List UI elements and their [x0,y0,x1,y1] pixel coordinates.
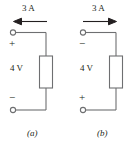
circuit-element-box [110,56,123,88]
circuit-b: 3 A 4 V − + (b) [70,0,140,146]
polarity-bottom-a: − [9,92,15,103]
terminal-top [10,30,15,35]
caption-a: (a) [27,128,38,138]
voltage-label-b: 4 V [80,64,93,73]
current-arrow-left-icon [14,18,48,25]
caption-b: (b) [97,128,108,138]
circuit-element-box [40,56,53,88]
current-arrow-right-icon [83,18,117,25]
terminal-bottom [80,107,85,112]
terminal-top [80,30,85,35]
terminal-bottom [10,107,15,112]
circuit-a-schematic [0,0,70,146]
polarity-top-a: + [9,38,15,49]
circuit-figure: 3 A 4 V + − (a) 3 A [0,0,140,146]
polarity-top-b: − [79,38,85,49]
voltage-label-a: 4 V [10,64,23,73]
polarity-bottom-b: + [79,92,85,103]
circuit-a: 3 A 4 V + − (a) [0,0,70,146]
current-label-b: 3 A [92,4,105,13]
current-label-a: 3 A [22,4,35,13]
circuit-b-schematic [70,0,140,146]
